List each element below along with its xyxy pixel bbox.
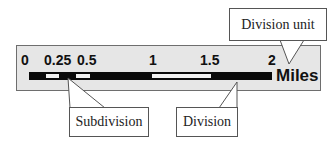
callout-subdivision: Subdivision bbox=[69, 107, 149, 137]
callout-division-unit: Division unit bbox=[229, 8, 327, 41]
callout-division-unit-text: Division unit bbox=[241, 17, 315, 33]
callout-division-text: Division bbox=[183, 114, 231, 130]
callout-subdivision-text: Subdivision bbox=[76, 114, 143, 130]
callout-division: Division bbox=[176, 107, 238, 137]
